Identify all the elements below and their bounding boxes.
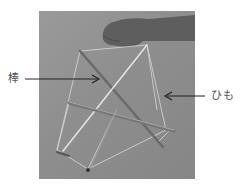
annotation-arrows (0, 0, 240, 188)
string-arrow-icon (165, 92, 205, 100)
rod-arrow-icon (25, 75, 99, 83)
